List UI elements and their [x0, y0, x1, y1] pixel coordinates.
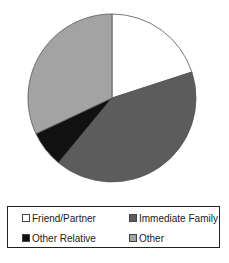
legend-item-other-relative: Other Relative: [22, 233, 96, 245]
legend-swatch-immediate-family: [129, 214, 137, 222]
legend-swatch-other: [129, 234, 137, 242]
legend-swatch-other-relative: [22, 234, 30, 242]
legend-item-other: Other: [129, 233, 164, 245]
legend-label: Other: [139, 233, 164, 244]
legend-item-immediate-family: Immediate Family: [129, 213, 218, 225]
pie-chart: [0, 0, 229, 200]
legend-item-friend-partner: Friend/Partner: [22, 213, 96, 225]
legend-label: Immediate Family: [139, 213, 218, 224]
chart-legend: Friend/Partner Immediate Family Other Re…: [7, 206, 220, 248]
legend-label: Friend/Partner: [32, 213, 96, 224]
legend-label: Other Relative: [32, 233, 96, 244]
legend-swatch-friend-partner: [22, 214, 30, 222]
